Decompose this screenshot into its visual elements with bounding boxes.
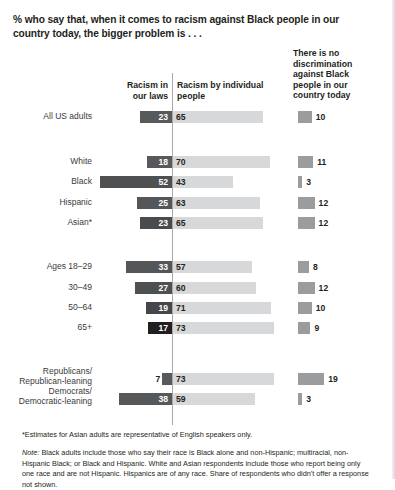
- bar-no-discrimination: [298, 393, 302, 405]
- bar-racism-by-individuals: 70: [173, 156, 270, 168]
- row-label-line: Asian*: [0, 218, 92, 228]
- bar-value-racism-by-individuals: 57: [176, 262, 186, 272]
- column-header-racism-in-laws: Racism in our laws: [116, 80, 168, 101]
- row-label-line: 50–64: [0, 303, 92, 313]
- bar-racism-in-laws: 17: [148, 322, 172, 334]
- row-label: White: [0, 157, 92, 167]
- chart-row: All US adults236510: [0, 110, 395, 124]
- column-header-no-discrimination: There is no discrimination against Black…: [293, 48, 366, 101]
- bar-racism-in-laws: 25: [137, 197, 172, 209]
- bar-racism-by-individuals: 65: [173, 217, 263, 229]
- row-label: Republicans/Republican-leaning: [0, 367, 92, 386]
- bar-no-discrimination: [298, 217, 315, 229]
- row-label: Democrats/Democratic-leaning: [0, 387, 92, 406]
- bar-value-racism-in-laws: 27: [158, 283, 168, 293]
- bar-value-racism-by-individuals: 60: [176, 283, 186, 293]
- bar-racism-by-individuals: 73: [173, 322, 274, 334]
- row-label-line: 30–49: [0, 283, 92, 293]
- bar-value-racism-by-individuals: 59: [176, 394, 186, 404]
- bar-no-discrimination: [298, 156, 313, 168]
- bar-racism-by-individuals: 59: [173, 393, 255, 405]
- row-label: Hispanic: [0, 198, 92, 208]
- bar-racism-in-laws: 52: [100, 176, 172, 188]
- bar-no-discrimination: [298, 176, 302, 188]
- row-label: 65+: [0, 323, 92, 333]
- row-label-line: Ages 18–29: [0, 262, 92, 272]
- bar-value-racism-in-laws: 23: [158, 218, 168, 228]
- bar-value-no-discrimination: 11: [317, 157, 326, 167]
- bar-no-discrimination: [298, 373, 324, 385]
- bar-value-racism-in-laws: 25: [158, 198, 168, 208]
- bar-value-racism-by-individuals: 63: [176, 198, 186, 208]
- bar-no-discrimination: [298, 322, 310, 334]
- chart-row: Black52433: [0, 175, 395, 189]
- bar-value-no-discrimination: 19: [328, 374, 338, 384]
- row-label-line: Democratic-leaning: [0, 397, 92, 407]
- bar-value-no-discrimination: 8: [313, 262, 318, 272]
- bar-value-no-discrimination: 12: [319, 283, 329, 293]
- bar-racism-in-laws: 33: [126, 261, 172, 273]
- row-label-line: Black: [0, 177, 92, 187]
- row-label-line: 65+: [0, 323, 92, 333]
- bar-racism-in-laws: 18: [147, 156, 172, 168]
- bar-value-no-discrimination: 3: [306, 177, 311, 187]
- bar-value-no-discrimination: 10: [316, 112, 326, 122]
- chart-title: % who say that, when it comes to racism …: [13, 13, 358, 40]
- row-label: Black: [0, 177, 92, 187]
- bar-value-racism-in-laws: 52: [158, 177, 168, 187]
- chart-row: Ages 18–2933578: [0, 260, 395, 274]
- chart-row: 50–64197110: [0, 301, 395, 315]
- chart-row: 65+17739: [0, 321, 395, 335]
- bar-no-discrimination: [298, 197, 315, 209]
- bar-value-no-discrimination: 10: [316, 303, 326, 313]
- footnote-note-body: Black adults include those who say their…: [22, 448, 369, 489]
- footnote-asterisk: *Estimates for Asian adults are represen…: [22, 430, 372, 441]
- chart-row: 30–49276012: [0, 281, 395, 295]
- bar-value-racism-in-laws: 17: [158, 323, 168, 333]
- bar-racism-by-individuals: 71: [173, 302, 271, 314]
- column-header-racism-by-individuals: Racism by individual people: [177, 80, 272, 101]
- chart-row: Hispanic256312: [0, 196, 395, 210]
- bar-racism-by-individuals: 57: [173, 261, 252, 273]
- bar-racism-by-individuals: 60: [173, 282, 256, 294]
- bar-value-racism-by-individuals: 73: [176, 323, 186, 333]
- bar-racism-in-laws: [162, 373, 172, 385]
- bar-value-no-discrimination: 3: [306, 394, 311, 404]
- bar-racism-in-laws: 19: [146, 302, 172, 314]
- bar-value-racism-in-laws: 18: [158, 157, 168, 167]
- bar-value-racism-in-laws: 19: [158, 303, 168, 313]
- bar-value-no-discrimination: 9: [314, 323, 319, 333]
- row-label: Asian*: [0, 218, 92, 228]
- row-label: 50–64: [0, 303, 92, 313]
- bar-value-racism-in-laws: 33: [158, 262, 168, 272]
- footnote-note: Note: Black adults include those who say…: [22, 448, 374, 490]
- bar-racism-in-laws: 23: [140, 217, 172, 229]
- bar-racism-by-individuals: 65: [173, 111, 263, 123]
- bar-value-no-discrimination: 12: [319, 218, 329, 228]
- bar-no-discrimination: [298, 261, 309, 273]
- row-label-line: White: [0, 157, 92, 167]
- row-label-line: Hispanic: [0, 198, 92, 208]
- bar-value-racism-by-individuals: 43: [176, 177, 186, 187]
- row-label: Ages 18–29: [0, 262, 92, 272]
- footnote-note-label: Note:: [22, 448, 39, 457]
- bar-racism-by-individuals: 73: [173, 373, 274, 385]
- chart-row: Republicans/Republican-leaning77319: [0, 372, 395, 386]
- bar-value-racism-by-individuals: 73: [176, 374, 186, 384]
- row-label-line: All US adults: [0, 112, 92, 122]
- bar-racism-by-individuals: 43: [173, 176, 233, 188]
- bar-value-racism-by-individuals: 65: [176, 218, 186, 228]
- bar-racism-in-laws: 27: [135, 282, 172, 294]
- bar-value-racism-by-individuals: 65: [176, 112, 186, 122]
- row-label: 30–49: [0, 283, 92, 293]
- bar-no-discrimination: [298, 111, 312, 123]
- bar-no-discrimination: [298, 282, 315, 294]
- chart-row: White187011: [0, 155, 395, 169]
- chart-row: Democrats/Democratic-leaning38593: [0, 392, 395, 406]
- bar-racism-in-laws: 38: [119, 393, 172, 405]
- bar-no-discrimination: [298, 302, 312, 314]
- bar-value-no-discrimination: 12: [319, 198, 329, 208]
- bar-value-racism-by-individuals: 71: [176, 303, 186, 313]
- bar-racism-in-laws: 23: [140, 111, 172, 123]
